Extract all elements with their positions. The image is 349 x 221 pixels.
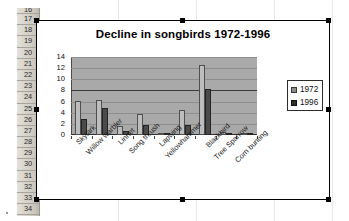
y-tick-label: 8 — [61, 86, 65, 94]
bar-series-container — [71, 57, 257, 135]
bar-1996[interactable] — [205, 89, 211, 135]
y-tick-label: 14 — [57, 53, 65, 61]
bar-group[interactable] — [71, 57, 92, 135]
selection-handle-bottom-left[interactable] — [34, 197, 39, 202]
selection-handle-middle-left[interactable] — [34, 107, 39, 112]
x-tick — [195, 136, 196, 139]
row-header[interactable]: 35 — [17, 215, 39, 216]
y-tick-label: 4 — [61, 109, 65, 117]
x-tick — [92, 136, 93, 139]
legend-label: 1972 — [300, 85, 318, 94]
legend-label: 1996 — [300, 98, 318, 107]
bar-group[interactable] — [236, 57, 257, 135]
selection-handle-bottom-center[interactable] — [180, 197, 185, 202]
selection-handle-bottom-right[interactable] — [326, 197, 331, 202]
x-tick — [71, 136, 72, 139]
page-artifact — [6, 212, 8, 214]
bar-group[interactable] — [133, 57, 154, 135]
x-tick — [154, 136, 155, 139]
y-tick-label: 6 — [61, 98, 65, 106]
plot-area-wrapper: 14 12 10 8 6 4 2 0 — [71, 57, 257, 135]
legend-swatch-icon — [291, 87, 297, 93]
bar-1996[interactable] — [247, 133, 253, 135]
selection-handle-top-center[interactable] — [180, 18, 185, 23]
spreadsheet-window: 16 17 18 19 20 21 22 23 24 25 26 27 28 2… — [0, 0, 349, 221]
worksheet-gridline — [332, 0, 333, 221]
y-axis[interactable]: 14 12 10 8 6 4 2 0 — [47, 51, 69, 141]
y-tick-label: 0 — [61, 131, 65, 139]
y-tick-label: 10 — [57, 75, 65, 83]
row-header[interactable]: 34 — [17, 204, 39, 215]
x-tick — [112, 136, 113, 139]
y-tick-label: 12 — [57, 64, 65, 72]
legend-entry-1972[interactable]: 1972 — [291, 83, 320, 96]
selection-handle-top-right[interactable] — [326, 18, 331, 23]
legend-swatch-icon — [291, 100, 297, 106]
x-tick — [133, 136, 134, 139]
y-tick-label: 2 — [61, 120, 65, 128]
selection-handle-middle-right[interactable] — [326, 107, 331, 112]
sheet-left-margin — [0, 0, 17, 221]
chart-legend[interactable]: 1972 1996 — [287, 80, 323, 111]
chart-object[interactable]: Decline in songbirds 1972-1996 14 12 10 … — [36, 20, 330, 200]
legend-entry-1996[interactable]: 1996 — [291, 96, 320, 109]
chart-title: Decline in songbirds 1972-1996 — [37, 28, 329, 40]
selection-handle-top-left[interactable] — [34, 18, 39, 23]
